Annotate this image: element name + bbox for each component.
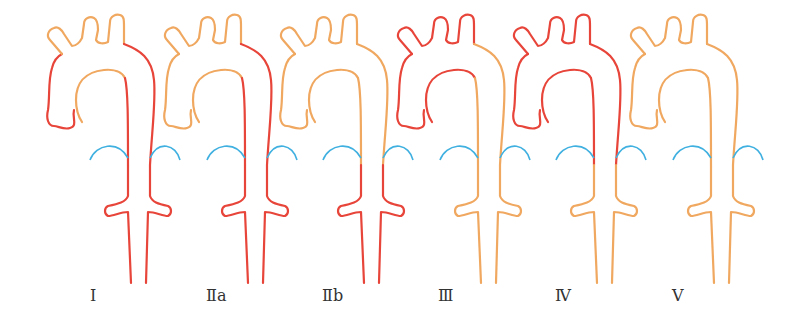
- type-label-4: Ⅳ: [555, 286, 571, 305]
- descending-inner-upper: [475, 78, 478, 165]
- aorta-type-3: [280, 15, 413, 283]
- inner-arch: [193, 70, 242, 122]
- aortic-dissection-diagram: [0, 0, 797, 323]
- aortic-arch-branches: [514, 15, 590, 54]
- ascending-aorta: [280, 54, 307, 129]
- renal-arc-right: [733, 146, 763, 160]
- renal-arc-left: [323, 146, 361, 160]
- abdominal-outer: [146, 165, 171, 283]
- abdominal-outer: [612, 165, 637, 283]
- aortic-arch-branches: [48, 15, 124, 54]
- descending-inner-upper: [591, 78, 594, 165]
- inner-arch: [426, 70, 475, 122]
- abdominal-inner: [105, 165, 131, 283]
- renal-arc-right: [267, 146, 297, 160]
- renal-arc-right: [383, 146, 413, 160]
- aortic-arch-branches: [398, 15, 474, 54]
- renal-arc-left: [90, 146, 128, 160]
- descending-inner-upper: [125, 78, 128, 165]
- aorta-type-6: [630, 15, 763, 283]
- ascending-aorta: [47, 54, 74, 129]
- abdominal-outer: [729, 165, 754, 283]
- inner-arch: [309, 70, 358, 122]
- abdominal-outer: [263, 165, 288, 283]
- type-label-2a: Ⅱa: [206, 286, 226, 305]
- renal-arc-left: [207, 146, 245, 160]
- type-label-3: Ⅲ: [438, 286, 453, 305]
- abdominal-inner: [338, 165, 364, 283]
- abdominal-outer: [496, 165, 521, 283]
- renal-arc-left: [673, 146, 711, 160]
- ascending-aorta: [513, 54, 540, 129]
- abdominal-inner: [688, 165, 714, 283]
- renal-arc-right: [500, 146, 530, 160]
- aortic-arch-branches: [281, 15, 357, 54]
- renal-arc-left: [556, 146, 594, 160]
- renal-arc-left: [440, 146, 478, 160]
- abdominal-inner: [222, 165, 248, 283]
- type-label-1: Ⅰ: [90, 286, 96, 305]
- inner-arch: [76, 70, 125, 122]
- ascending-aorta: [164, 54, 191, 129]
- descending-inner-upper: [708, 78, 711, 165]
- renal-arc-right: [616, 146, 646, 160]
- inner-arch: [659, 70, 708, 122]
- aorta-type-1: [47, 15, 180, 283]
- abdominal-inner: [571, 165, 597, 283]
- ascending-aorta: [397, 54, 424, 129]
- aortic-arch-branches: [165, 15, 241, 54]
- aortic-arch-branches: [631, 15, 707, 54]
- abdominal-outer: [379, 165, 404, 283]
- aorta-type-5: [513, 15, 646, 283]
- type-label-2b: Ⅱb: [322, 286, 343, 305]
- abdominal-inner: [455, 165, 481, 283]
- aorta-type-2: [164, 15, 297, 283]
- descending-inner-upper: [358, 78, 361, 165]
- type-label-5: Ⅴ: [672, 286, 684, 305]
- descending-inner-upper: [242, 78, 245, 165]
- inner-arch: [542, 70, 591, 122]
- aorta-type-4: [397, 15, 530, 283]
- ascending-aorta: [630, 54, 657, 129]
- renal-arc-right: [150, 146, 180, 160]
